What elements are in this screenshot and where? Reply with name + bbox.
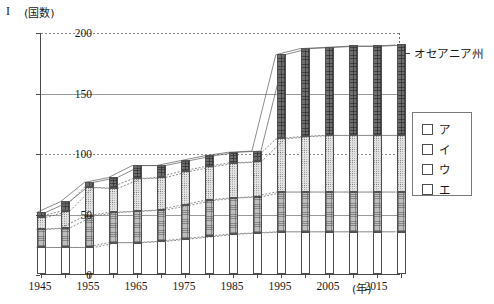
legend-item-エ: エ: [413, 179, 471, 199]
y-tick-label-200: 200: [32, 27, 92, 39]
bar-segment-1975-イ: [181, 171, 190, 205]
gridline-100: [41, 154, 400, 155]
bar-segment-2000-イ: [301, 136, 310, 192]
bar-2010: [349, 32, 358, 274]
legend-label-エ: エ: [439, 181, 450, 197]
legend-swatch-イ: [422, 144, 433, 155]
x-tick-mark-2015: [377, 274, 378, 278]
x-tick-label-1945: 1945: [29, 280, 52, 292]
legend-item-ウ: ウ: [413, 159, 471, 179]
bar-segment-1995-ウ: [277, 192, 286, 232]
bar-segment-1985-イ: [229, 163, 238, 198]
chart-legend: アイウエ: [412, 112, 472, 196]
bar-segment-1955-ア: [85, 182, 94, 187]
bar-segment-1965-エ: [133, 243, 142, 274]
bar-segment-2015-ア: [373, 45, 382, 135]
legend-label-ア: ア: [439, 121, 450, 137]
bar-2020: [397, 32, 406, 274]
bar-segment-1990-イ: [253, 161, 262, 196]
y-tick-mark-200: [36, 33, 40, 34]
bar-1980: [205, 32, 214, 274]
bar-segment-1995-ア: [277, 54, 286, 139]
x-tick-mark-2020: [401, 274, 402, 278]
bar-segment-1955-ウ: [85, 216, 94, 247]
bar-segment-1985-ウ: [229, 198, 238, 234]
bar-segment-1970-ア: [157, 165, 166, 177]
bar-1975: [181, 32, 190, 274]
legend-item-ア: ア: [413, 119, 471, 139]
bar-segment-1975-ア: [181, 160, 190, 171]
bar-segment-2020-エ: [397, 232, 406, 274]
x-axis-unit-label: (年): [352, 280, 372, 296]
x-tick-label-1965: 1965: [125, 280, 148, 292]
bar-segment-2005-ア: [325, 47, 334, 135]
bar-segment-2015-イ: [373, 135, 382, 192]
x-tick-mark-2005: [329, 274, 330, 278]
x-tick-mark-1985: [233, 274, 234, 278]
bar-segment-2010-ア: [349, 45, 358, 135]
gridline-150: [41, 94, 400, 95]
bar-segment-1965-ウ: [133, 211, 142, 242]
bar-segment-1960-ア: [109, 177, 118, 188]
x-tick-label-1955: 1955: [77, 280, 100, 292]
x-tick-label-2005: 2005: [317, 280, 340, 292]
x-tick-mark-1960: [113, 274, 114, 278]
x-tick-mark-2010: [353, 274, 354, 278]
bar-2015: [373, 32, 382, 274]
y-tick-mark-100: [36, 154, 40, 155]
bar-segment-2010-エ: [349, 232, 358, 274]
bar-segment-2010-ウ: [349, 192, 358, 232]
y-tick-label-150: 150: [32, 88, 92, 100]
legend-swatch-ア: [422, 124, 433, 135]
bar-segment-1975-ウ: [181, 205, 190, 239]
x-tick-mark-1980: [209, 274, 210, 278]
bar-segment-1945-ウ: [37, 229, 46, 247]
bar-segment-2020-ア: [397, 44, 406, 135]
legend-item-イ: イ: [413, 139, 471, 159]
y-tick-label-50: 50: [32, 209, 92, 221]
x-tick-mark-1990: [257, 274, 258, 278]
y-tick-label-100: 100: [32, 148, 92, 160]
bar-segment-2005-イ: [325, 135, 334, 192]
legend-swatch-ウ: [422, 164, 433, 175]
bar-segment-1965-ア: [133, 165, 142, 178]
bar-segment-1960-イ: [109, 188, 118, 212]
bar-segment-1985-エ: [229, 234, 238, 274]
bar-segment-1995-イ: [277, 138, 286, 191]
bar-segment-1980-エ: [205, 236, 214, 274]
bar-1965: [133, 32, 142, 274]
annotation-leader-line: [405, 53, 411, 54]
bar-2000: [301, 32, 310, 274]
bar-segment-1980-ア: [205, 155, 214, 166]
legend-label-ウ: ウ: [439, 161, 450, 177]
bar-segment-1970-イ: [157, 177, 166, 210]
gridline-50: [41, 215, 400, 216]
bar-segment-1970-エ: [157, 241, 166, 274]
legend-swatch-エ: [422, 184, 433, 195]
x-tick-mark-1970: [161, 274, 162, 278]
bar-1970: [157, 32, 166, 274]
bar-2005: [325, 32, 334, 274]
bar-segment-2020-イ: [397, 135, 406, 192]
bar-segment-1970-ウ: [157, 210, 166, 241]
y-axis-unit-label: (国数): [24, 4, 55, 20]
figure-number-label: I: [6, 4, 11, 19]
bar-segment-1950-ウ: [61, 228, 70, 247]
bar-segment-2010-イ: [349, 135, 358, 192]
bar-segment-2000-ア: [301, 48, 310, 136]
x-tick-mark-1965: [137, 274, 138, 278]
x-tick-mark-1995: [281, 274, 282, 278]
bar-1995: [277, 32, 286, 274]
x-tick-label-1975: 1975: [173, 280, 196, 292]
bar-1960: [109, 32, 118, 274]
bar-segment-1965-イ: [133, 178, 142, 211]
legend-label-イ: イ: [439, 141, 450, 157]
annotation-label: オセアニア州: [414, 45, 483, 61]
bar-segment-1980-イ: [205, 166, 214, 200]
y-tick-mark-50: [36, 215, 40, 216]
bar-segment-1990-ウ: [253, 197, 262, 233]
x-tick-mark-1975: [185, 274, 186, 278]
bar-segment-1990-エ: [253, 233, 262, 274]
x-tick-label-1985: 1985: [221, 280, 244, 292]
plot-area: [40, 33, 400, 275]
